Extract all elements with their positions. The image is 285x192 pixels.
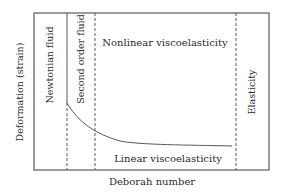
linear-viscoelasticity-label: Linear viscoelasticity (114, 153, 222, 164)
elasticity-label: Elasticity (246, 69, 257, 115)
newtonian-fluid-label: Newtonian fluid (44, 26, 55, 103)
linear-limit-curve (67, 103, 232, 146)
y-axis-label: Deformation (strain) (14, 43, 25, 142)
deformation-deborah-diagram: Newtonian fluid Second order fluid Nonli… (0, 0, 285, 192)
nonlinear-viscoelasticity-label: Nonlinear viscoelasticity (102, 37, 228, 48)
x-axis-label: Deborah number (109, 176, 195, 187)
second-order-fluid-label: Second order fluid (75, 14, 86, 104)
